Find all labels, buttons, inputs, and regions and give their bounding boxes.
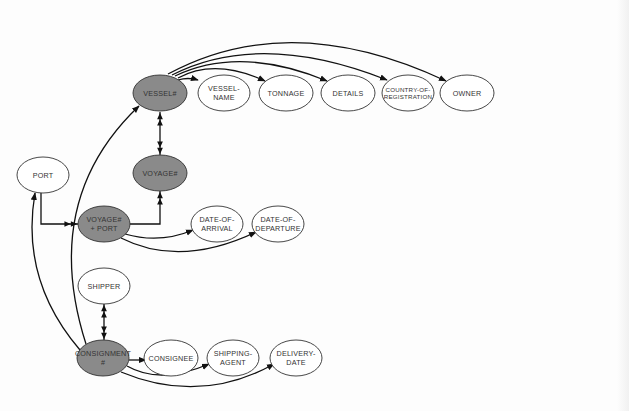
node-consignment: CONSIGNMENT# [75, 340, 132, 376]
node-label: + PORT [90, 224, 118, 233]
node-date-of-arrival: DATE-OF-ARRIVAL [191, 206, 243, 242]
node-label: DETAILS [333, 89, 364, 98]
node-label: # [101, 358, 105, 367]
node-date-of-departure: DATE-OF-DEPARTURE [252, 206, 304, 242]
edge-port-to-voyage-port [41, 193, 78, 224]
node-vessel-name: VESSEL-NAME [198, 75, 250, 111]
edge-voyage-port-to-date-of-arrival [125, 230, 193, 238]
node-consignee: CONSIGNEE [144, 340, 198, 376]
node-voyage: VOYAGE# [133, 155, 187, 191]
node-details: DETAILS [321, 75, 375, 111]
node-owner: OWNER [440, 75, 494, 111]
node-label: REGISTRATION [384, 93, 432, 100]
node-label: PORT [33, 171, 54, 180]
node-label: CONSIGNEE [149, 354, 194, 363]
edge-voyage-port-to-voyage [130, 191, 160, 224]
edge-vessel-to-vessel-name [178, 79, 198, 81]
node-label: VOYAGE# [142, 169, 177, 178]
edge-consignment-to-port [32, 193, 80, 350]
node-shipper: SHIPPER [78, 268, 130, 304]
node-label: ARRIVAL [201, 224, 233, 233]
node-label: NAME [213, 93, 235, 102]
node-tonnage: TONNAGE [259, 75, 313, 111]
node-label: OWNER [453, 89, 482, 98]
node-country-of-registration: COUNTRY-OF-REGISTRATION [382, 75, 434, 111]
nodes-layer: VESSEL#VESSEL-NAMETONNAGEDETAILSCOUNTRY-… [17, 75, 494, 376]
node-port: PORT [17, 157, 69, 193]
node-label: VESSEL# [143, 89, 176, 98]
node-delivery-date: DELIVERY-DATE [270, 340, 322, 376]
node-label: DATE [286, 358, 305, 367]
node-vessel: VESSEL# [133, 75, 187, 111]
node-label: TONNAGE [268, 89, 305, 98]
diagram-canvas: VESSEL#VESSEL-NAMETONNAGEDETAILSCOUNTRY-… [0, 0, 629, 411]
node-label: DEPARTURE [255, 224, 300, 233]
node-label: AGENT [220, 358, 246, 367]
node-label: SHIPPER [88, 282, 121, 291]
node-label: COUNTRY-OF- [386, 86, 431, 93]
dependency-diagram: VESSEL#VESSEL-NAMETONNAGEDETAILSCOUNTRY-… [0, 0, 629, 411]
node-voyage-port: VOYAGE#+ PORT [78, 206, 130, 242]
node-shipping-agent: SHIPPING-AGENT [207, 340, 259, 376]
